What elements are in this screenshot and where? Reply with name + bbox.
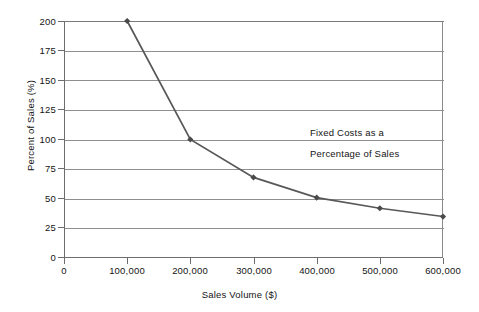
data-series-layer — [0, 0, 479, 312]
data-point — [314, 194, 320, 200]
data-point — [124, 18, 130, 24]
data-point — [377, 205, 383, 211]
data-point — [440, 213, 446, 219]
chart-container: Percent of Sales (%) 200 175 150 125 100… — [0, 0, 479, 312]
series-markers — [124, 18, 446, 220]
series-line — [127, 21, 443, 217]
